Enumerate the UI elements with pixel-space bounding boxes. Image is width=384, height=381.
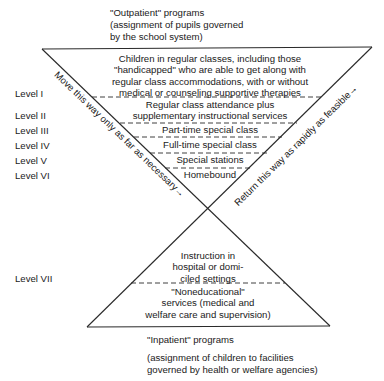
level-7-label: Level VII bbox=[15, 273, 52, 284]
level-4-label: Level IV bbox=[15, 140, 50, 151]
inpatient-subtitle-1: (assignment of children to facilities bbox=[147, 352, 294, 363]
level-1-label: Level I bbox=[15, 88, 43, 99]
level-5-label: Level V bbox=[15, 155, 47, 166]
level-3-description: Part-time special class bbox=[130, 124, 290, 135]
bottom-edge bbox=[87, 326, 330, 327]
outpatient-subtitle-2: by the school system) bbox=[110, 31, 203, 42]
level-1-description: Children in regular classes, including t… bbox=[100, 53, 320, 99]
noneducational-description: "Noneducational" services (medical and w… bbox=[128, 286, 288, 320]
level-3-label: Level III bbox=[15, 125, 49, 136]
level-2-label: Level II bbox=[15, 110, 46, 121]
level-7-description: Instruction in hospital or domi- ciled s… bbox=[148, 250, 268, 284]
outpatient-subtitle-1: (assignment of pupils governed bbox=[110, 19, 243, 30]
inpatient-subtitle-2: governed by health or welfare agencies) bbox=[147, 364, 318, 375]
level-2-description: Regular class attendance plus supplement… bbox=[110, 99, 310, 122]
inpatient-title: "Inpatient" programs bbox=[147, 334, 234, 345]
level-6-label: Level VI bbox=[15, 170, 50, 181]
top-edge bbox=[42, 47, 372, 49]
level-5-description: Special stations bbox=[140, 154, 280, 165]
level-4-description: Full-time special class bbox=[130, 139, 290, 150]
outpatient-title: "Outpatient" programs bbox=[110, 7, 204, 18]
